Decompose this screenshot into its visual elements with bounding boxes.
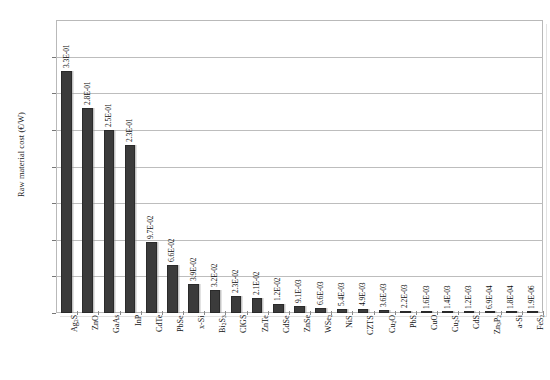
bar[interactable]	[379, 310, 390, 313]
bar-slot[interactable]: 2.3E-01	[125, 20, 136, 313]
bar[interactable]	[167, 265, 178, 313]
x-axis-label: x-Si	[197, 316, 206, 330]
bar[interactable]	[210, 290, 221, 313]
bar-slot[interactable]: 2.3E-02	[231, 20, 242, 313]
x-axis-label: CIGS	[239, 315, 248, 333]
x-axis-labels: Ag2SZnOGaAsInPCdTePbSex-SiBi2S3CIGSZnTeC…	[56, 315, 543, 377]
x-axis-label: ZnO	[91, 315, 100, 330]
bar[interactable]	[527, 311, 538, 313]
bar-slot[interactable]: 9.1E-03	[294, 20, 305, 313]
y-axis-title: Raw material cost (€/W)	[17, 65, 26, 245]
x-axis-label: a-Si	[515, 315, 524, 328]
bar[interactable]	[146, 242, 157, 313]
x-axis-label: ZnSe	[303, 315, 312, 332]
x-axis-label: FeS2	[536, 315, 545, 330]
bar-slot[interactable]: 1.2E-02	[273, 20, 284, 313]
bar-value-label: 4.9E-03	[358, 283, 367, 307]
x-axis-label: CuO	[430, 315, 439, 330]
bar-value-label: 9.1E-03	[294, 280, 303, 304]
bar[interactable]	[82, 108, 93, 313]
bar-slot[interactable]: 6.6E-03	[315, 20, 326, 313]
bar[interactable]	[188, 284, 199, 313]
bar-value-label: 2.1E-02	[252, 271, 261, 295]
bar-slot[interactable]: 3.2E-02	[210, 20, 221, 313]
bar-value-label: 1.2E-03	[463, 285, 472, 309]
bar[interactable]	[273, 304, 284, 313]
x-axis-label: CdTe	[155, 315, 164, 332]
bar-slot[interactable]: 2.2E-03	[400, 20, 411, 313]
bar-value-label: 1.6E-03	[421, 285, 430, 309]
bar[interactable]	[125, 145, 136, 313]
bar[interactable]	[231, 296, 242, 313]
bar-slot[interactable]: 1.8E-04	[506, 20, 517, 313]
bar-value-label: 2.3E-01	[125, 118, 134, 142]
bar[interactable]	[464, 311, 475, 313]
y-tick-mark	[52, 313, 56, 314]
x-axis-label: CZTS	[366, 315, 375, 335]
x-axis-label: CdSe	[282, 315, 291, 333]
bar[interactable]	[421, 311, 432, 313]
bar-slot[interactable]: 2.5E-01	[104, 20, 115, 313]
bar-slot[interactable]: 2.8E-01	[82, 20, 93, 313]
bar-slot[interactable]: 5.4E-03	[337, 20, 348, 313]
bar-slot[interactable]: 6.6E-02	[167, 20, 178, 313]
bar-slot[interactable]: 2.1E-02	[252, 20, 263, 313]
x-axis-label: Cu2S	[451, 315, 460, 332]
bar[interactable]	[485, 311, 496, 313]
bar-slot[interactable]: 1.9E-06	[527, 20, 538, 313]
x-axis-label: PbSe	[176, 315, 185, 332]
bar-value-label: 1.4E-03	[442, 285, 451, 309]
x-axis-label: NiS	[345, 315, 354, 328]
bar-slot[interactable]: 6.9E-04	[485, 20, 496, 313]
bar-slot[interactable]: 1.6E-03	[421, 20, 432, 313]
x-axis-label: CdS	[472, 315, 481, 329]
bar-value-label: 6.9E-04	[485, 285, 494, 309]
bar-value-label: 3.6E-03	[379, 284, 388, 308]
bar[interactable]	[315, 308, 326, 313]
bar-value-label: 2.2E-03	[400, 285, 409, 309]
bar[interactable]	[294, 306, 305, 313]
bar-value-label: 5.4E-03	[336, 282, 345, 306]
bar[interactable]	[252, 298, 263, 313]
bar-value-label: 2.5E-01	[104, 103, 113, 127]
x-axis-label: InP	[134, 315, 143, 326]
bar-slot[interactable]: 3.9E-02	[188, 20, 199, 313]
bar-value-label: 1.2E-02	[273, 278, 282, 302]
bar-value-label: 3.2E-02	[209, 263, 218, 287]
bar[interactable]	[442, 311, 453, 313]
bar-value-label: 2.8E-01	[82, 81, 91, 105]
x-axis-label: GaAs	[112, 315, 121, 333]
bars-layer: 3.3E-012.8E-012.5E-012.3E-019.7E-026.6E-…	[56, 20, 543, 313]
bar-slot[interactable]: 9.7E-02	[146, 20, 157, 313]
bar-value-label: 1.8E-04	[506, 285, 515, 309]
bar-value-label: 3.9E-02	[188, 258, 197, 282]
bar-chart: Raw material cost (€/W) 0.E+005.E-021.E-…	[0, 0, 550, 380]
bar[interactable]	[400, 311, 411, 313]
x-axis-label: Bi2S3	[218, 315, 227, 333]
bar-value-label: 6.6E-02	[167, 238, 176, 262]
bar-value-label: 3.3E-01	[61, 45, 70, 69]
bar[interactable]	[104, 130, 115, 313]
x-axis-label: ZnTe	[261, 315, 270, 332]
x-axis-label: Cu2O	[388, 315, 397, 333]
x-axis-label: Ag2S	[70, 315, 79, 332]
bar-value-label: 1.9E-06	[527, 285, 536, 309]
bar-slot[interactable]: 4.9E-03	[358, 20, 369, 313]
bar-value-label: 2.3E-02	[231, 270, 240, 294]
bar-slot[interactable]: 1.4E-03	[442, 20, 453, 313]
bar-slot[interactable]: 3.6E-03	[379, 20, 390, 313]
x-axis-label: WSe2	[324, 315, 333, 333]
bar[interactable]	[358, 309, 369, 313]
x-axis-label: PbS	[409, 315, 418, 328]
bar-value-label: 6.6E-03	[315, 282, 324, 306]
bar-slot[interactable]: 3.3E-01	[61, 20, 72, 313]
bar[interactable]	[61, 71, 72, 313]
bar[interactable]	[337, 309, 348, 313]
bar-slot[interactable]: 1.2E-03	[464, 20, 475, 313]
x-axis-label: Zn3P2	[493, 315, 502, 334]
bar[interactable]	[506, 311, 517, 313]
x-tick-mark	[352, 311, 353, 315]
bar-value-label: 9.7E-02	[146, 215, 155, 239]
